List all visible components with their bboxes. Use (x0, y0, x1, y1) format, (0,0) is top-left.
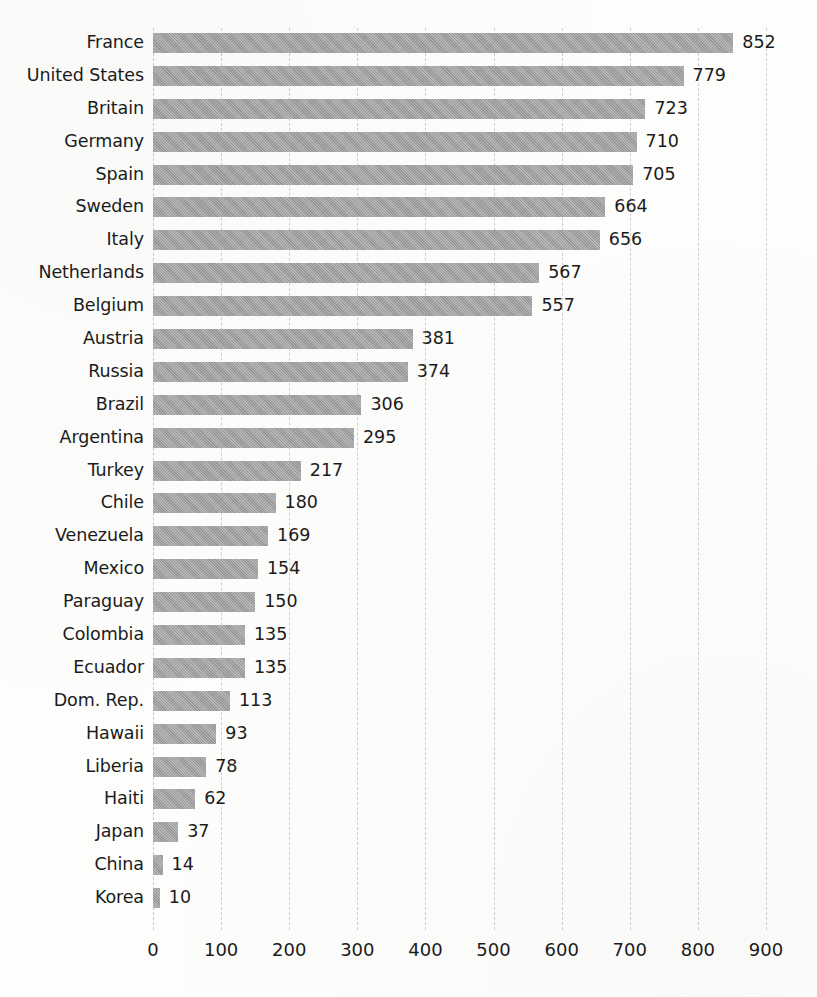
bar-value-label: 723 (654, 98, 687, 119)
bar-row: United States779 (0, 65, 817, 98)
bar-row: Brazil306 (0, 394, 817, 427)
bar-row: Britain723 (0, 98, 817, 131)
bar (153, 526, 268, 546)
category-label: Austria (0, 328, 144, 349)
category-label: Netherlands (0, 262, 144, 283)
category-label: Colombia (0, 624, 144, 645)
category-label: China (0, 854, 144, 875)
bar-value-label: 557 (541, 295, 574, 316)
bar-value-label: 150 (264, 591, 297, 612)
bar-row: Hawaii93 (0, 723, 817, 756)
x-tick-label: 500 (476, 938, 510, 962)
bar-row: Venezuela169 (0, 525, 817, 558)
bar (153, 658, 245, 678)
bar-value-label: 113 (239, 690, 272, 711)
bar (153, 329, 413, 349)
bar-value-label: 306 (370, 394, 403, 415)
bar (153, 757, 206, 777)
bar-row: Liberia78 (0, 756, 817, 789)
bar (153, 165, 633, 185)
bar-value-label: 567 (548, 262, 581, 283)
category-label: Spain (0, 164, 144, 185)
bar (153, 625, 245, 645)
category-label: Japan (0, 821, 144, 842)
bar-value-label: 295 (363, 427, 396, 448)
bar-value-label: 217 (310, 460, 343, 481)
bar (153, 33, 733, 53)
bar-rows: France852United States779Britain723Germa… (0, 32, 817, 920)
category-label: Mexico (0, 558, 144, 579)
bar-row: Russia374 (0, 361, 817, 394)
bar-row: Austria381 (0, 328, 817, 361)
x-tick-label: 900 (749, 938, 783, 962)
bar-row: Germany710 (0, 131, 817, 164)
bar-row: Italy656 (0, 229, 817, 262)
x-tick-label: 400 (408, 938, 442, 962)
bar-row: Ecuador135 (0, 657, 817, 690)
category-label: Argentina (0, 427, 144, 448)
category-label: Ecuador (0, 657, 144, 678)
bar-row: Colombia135 (0, 624, 817, 657)
bar-value-label: 664 (614, 196, 647, 217)
bar (153, 230, 600, 250)
bar (153, 461, 301, 481)
bar-value-label: 78 (215, 756, 237, 777)
bar-row: Japan37 (0, 821, 817, 854)
bar-value-label: 656 (609, 229, 642, 250)
bar-value-label: 852 (742, 32, 775, 53)
bar-value-label: 14 (172, 854, 194, 875)
bar-value-label: 62 (204, 788, 226, 809)
bar-row: Spain705 (0, 164, 817, 197)
bar (153, 99, 645, 119)
x-tick-label: 700 (613, 938, 647, 962)
category-label: Turkey (0, 460, 144, 481)
bar-row: Argentina295 (0, 427, 817, 460)
bar-row: Dom. Rep.113 (0, 690, 817, 723)
bar-value-label: 135 (254, 624, 287, 645)
category-label: Paraguay (0, 591, 144, 612)
category-label: Britain (0, 98, 144, 119)
bar-value-label: 705 (642, 164, 675, 185)
x-tick-label: 0 (147, 938, 158, 962)
bar-row: Paraguay150 (0, 591, 817, 624)
bar (153, 66, 684, 86)
category-label: Hawaii (0, 723, 144, 744)
category-label: Liberia (0, 756, 144, 777)
bar-value-label: 135 (254, 657, 287, 678)
bar-value-label: 10 (169, 887, 191, 908)
bar-row: Korea10 (0, 887, 817, 920)
bar (153, 592, 255, 612)
bar-value-label: 37 (187, 821, 209, 842)
category-label: Sweden (0, 196, 144, 217)
category-label: France (0, 32, 144, 53)
bar-row: Haiti62 (0, 788, 817, 821)
x-tick-label: 800 (681, 938, 715, 962)
bar (153, 559, 258, 579)
bar-value-label: 93 (225, 723, 247, 744)
category-label: Germany (0, 131, 144, 152)
category-label: Chile (0, 492, 144, 513)
bar-row: France852 (0, 32, 817, 65)
bar-row: Chile180 (0, 492, 817, 525)
x-tick-label: 300 (340, 938, 374, 962)
bar-row: Mexico154 (0, 558, 817, 591)
bar (153, 789, 195, 809)
bar-value-label: 779 (693, 65, 726, 86)
bar-row: Belgium557 (0, 295, 817, 328)
bar (153, 822, 178, 842)
bar (153, 428, 354, 448)
bar (153, 362, 408, 382)
bar (153, 263, 539, 283)
bar (153, 691, 230, 711)
category-label: Haiti (0, 788, 144, 809)
bar-value-label: 154 (267, 558, 300, 579)
bar (153, 493, 276, 513)
category-label: Brazil (0, 394, 144, 415)
bar-value-label: 180 (285, 492, 318, 513)
x-tick-label: 600 (544, 938, 578, 962)
category-label: Russia (0, 361, 144, 382)
bar (153, 296, 532, 316)
bar-row: Netherlands567 (0, 262, 817, 295)
category-label: United States (0, 65, 144, 86)
bar-value-label: 381 (422, 328, 455, 349)
